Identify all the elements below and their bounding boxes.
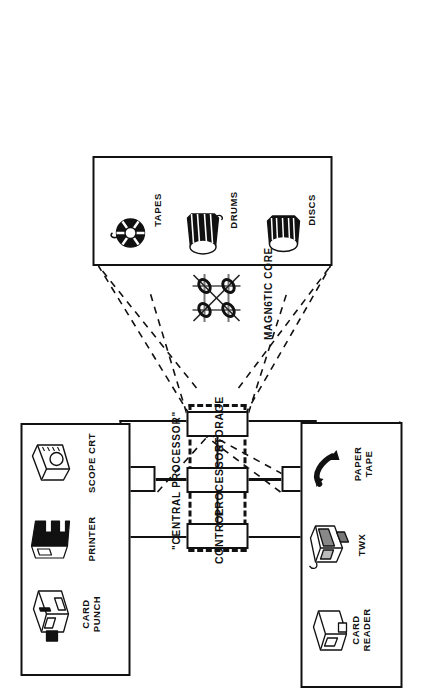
device-drums-label: DRUMS [228,182,239,238]
core-matrix-icon [186,266,248,328]
device-paper-tape-label: PAPER TAPE [352,432,373,496]
central-processor-label: "CENTRAL PROCESSOR" [170,411,181,550]
printer-icon [29,514,71,562]
crt-monitor-icon [28,440,72,486]
drum-cylinder-icon [182,204,224,258]
unit-storage-label: STORAGE [212,379,224,469]
card-punch-icon [28,586,70,642]
device-card-punch-label: CARD PUNCH [80,582,101,646]
teletype-icon [306,520,350,572]
paper-tape-icon [308,436,348,490]
magnetic-core-label: MAGN6TIC CORE [262,250,273,340]
device-card-reader-label: CARD READER [350,598,371,662]
device-tapes-label: TAPES [152,182,163,238]
device-scope-crt-label: SCOPE CRT [86,432,97,494]
device-discs-label: DISCS [306,182,317,238]
diagram-canvas: "CENTRAL PROCESSOR" CONTROL PROCESSOR ST… [0,0,429,698]
device-printer-label: PRINTER [86,508,97,570]
bus-processor-to-input [245,478,281,481]
device-twx-label: TWX [356,514,367,576]
card-reader-icon [308,606,350,656]
tape-reel-icon [106,211,150,253]
